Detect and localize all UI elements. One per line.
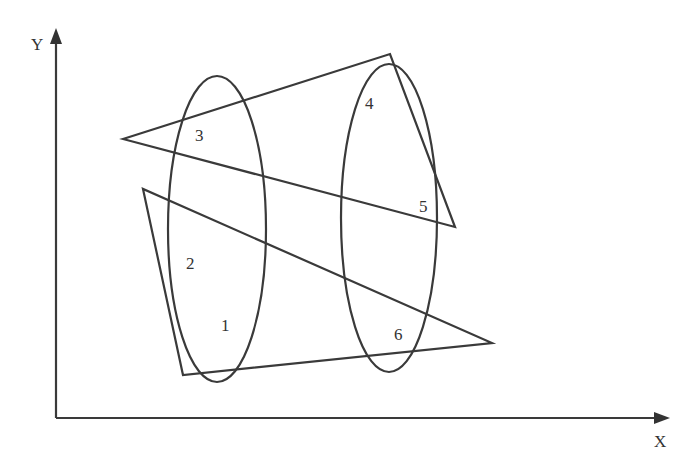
label-4: 4 — [365, 94, 374, 113]
y-axis-arrow-icon — [50, 28, 62, 44]
label-2: 2 — [186, 254, 195, 273]
lower-triangle — [143, 189, 492, 375]
y-axis-label: Y — [31, 35, 43, 54]
label-1: 1 — [221, 316, 230, 335]
x-axis-arrow-icon — [654, 412, 670, 424]
label-3: 3 — [195, 126, 204, 145]
label-6: 6 — [394, 325, 403, 344]
x-axis-label: X — [654, 432, 666, 451]
label-5: 5 — [419, 197, 428, 216]
left-ellipse — [168, 76, 266, 382]
diagram: Y X 1 2 3 4 5 6 — [0, 0, 700, 469]
